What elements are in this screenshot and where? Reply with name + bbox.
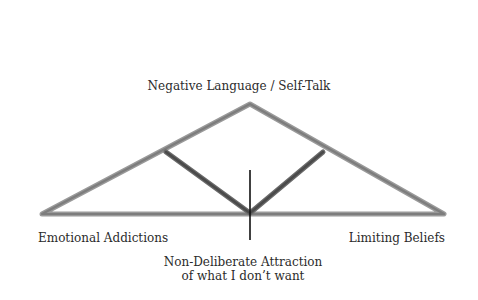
center-bottom-label-line1: Non-Deliberate Attraction: [0, 255, 478, 269]
center-bottom-label-line2: of what I don’t want: [0, 269, 478, 283]
bottom-left-label: Emotional Addictions: [38, 231, 168, 245]
outer-triangle: [42, 104, 444, 214]
center-bottom-label: Non-Deliberate Attraction of what I don’…: [0, 255, 478, 283]
apex-label: Negative Language / Self-Talk: [0, 79, 478, 93]
inner-v-struts: [166, 152, 323, 213]
bottom-right-label: Limiting Beliefs: [349, 231, 445, 245]
